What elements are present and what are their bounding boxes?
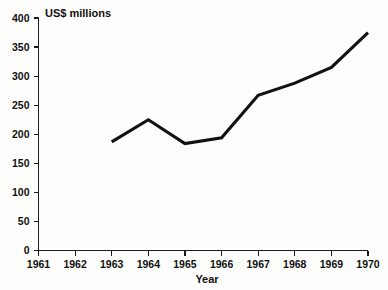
- x-axis-title: Year: [195, 273, 219, 285]
- x-axis-tick-marks: [39, 251, 369, 256]
- data-series-line: [112, 33, 368, 144]
- y-axis-tick-label: 300: [12, 70, 30, 82]
- x-axis-tick-label: 1965: [173, 258, 197, 270]
- y-axis-tick-label: 100: [12, 186, 30, 198]
- x-axis-tick-label: 1962: [63, 258, 87, 270]
- y-axis-tick-label: 350: [12, 41, 30, 53]
- line-chart: 050100150200250300350400 196119621963196…: [0, 0, 388, 290]
- x-axis-tick-label: 1961: [27, 258, 51, 270]
- x-axis-tick-label: 1969: [320, 258, 344, 270]
- x-axis-tick-label: 1964: [137, 258, 161, 270]
- x-axis-tick-label: 1968: [283, 258, 307, 270]
- y-axis-tick-label: 400: [12, 12, 30, 24]
- y-axis-tick-marks: [34, 18, 39, 251]
- y-axis-tick-label: 250: [12, 99, 30, 111]
- y-axis-tick-label: 50: [18, 215, 30, 227]
- x-axis-tick-label: 1963: [100, 258, 124, 270]
- x-axis-tick-label: 1966: [210, 258, 234, 270]
- y-axis-unit-label: US$ millions: [45, 7, 111, 19]
- y-axis-tick-label: 150: [12, 157, 30, 169]
- x-axis-tick-labels: 1961196219631964196519661967196819691970: [27, 258, 380, 270]
- chart-container: 050100150200250300350400 196119621963196…: [0, 0, 388, 290]
- x-axis-tick-label: 1967: [246, 258, 270, 270]
- y-axis-tick-label: 200: [12, 128, 30, 140]
- y-axis-tick-labels: 050100150200250300350400: [12, 12, 30, 256]
- x-axis-tick-label: 1970: [356, 258, 380, 270]
- y-axis-tick-label: 0: [24, 244, 30, 256]
